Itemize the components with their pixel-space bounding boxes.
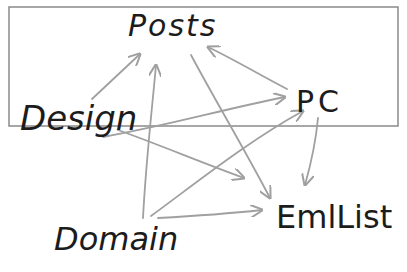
edge-pc-emllist <box>305 118 318 185</box>
node-domain: Domain <box>54 220 178 258</box>
edge-domain-posts <box>143 65 156 218</box>
edge-design-posts <box>92 54 140 99</box>
edge-pc-posts <box>208 47 287 89</box>
diagram-canvas: Posts PC Design Domain EmlList <box>0 0 407 272</box>
node-design: Design <box>20 98 137 138</box>
edge-domain-emllist <box>158 210 262 218</box>
node-posts: Posts <box>128 8 217 43</box>
node-emllist: EmlList <box>276 198 392 236</box>
node-pc: PC <box>296 84 343 119</box>
